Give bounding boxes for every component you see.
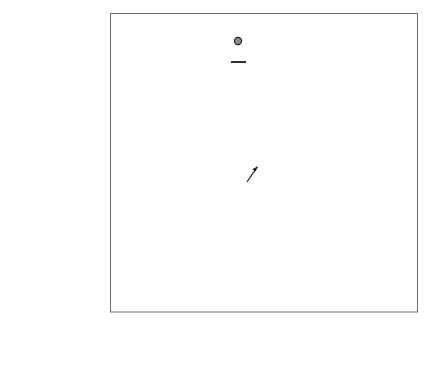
- chart-container: [0, 0, 428, 387]
- excess-cases-chart: [0, 0, 428, 387]
- chart-background: [0, 0, 428, 387]
- legend-observed-marker-icon: [234, 37, 241, 44]
